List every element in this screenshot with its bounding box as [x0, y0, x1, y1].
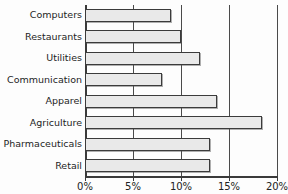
bar-retail [85, 159, 210, 172]
bar-row: Retail [0, 156, 288, 178]
category-label-computers: Computers [30, 9, 82, 20]
bar-row: Computers [0, 5, 288, 27]
bar-agriculture [85, 116, 262, 129]
plot-area: ComputersRestaurantsUtilitiesCommunicati… [0, 0, 288, 194]
x-tick-label: 20% [266, 181, 288, 192]
bar-chart-figure: ComputersRestaurantsUtilitiesCommunicati… [0, 0, 288, 194]
bar-row: Agriculture [0, 113, 288, 135]
category-label-agriculture: Agriculture [30, 117, 82, 128]
bar-computers [85, 9, 171, 22]
x-tick-label: 10% [170, 181, 192, 192]
category-label-utilities: Utilities [46, 52, 82, 63]
bar-pharmaceuticals [85, 138, 210, 151]
category-label-restaurants: Restaurants [25, 31, 82, 42]
x-tick-label: 0% [77, 181, 93, 192]
bar-restaurants [85, 30, 181, 43]
bar-row: Utilities [0, 48, 288, 70]
bar-row: Apparel [0, 91, 288, 113]
bar-communication [85, 73, 162, 86]
x-tick-label: 15% [218, 181, 240, 192]
bar-row: Pharmaceuticals [0, 134, 288, 156]
bar-utilities [85, 52, 200, 65]
category-label-retail: Retail [55, 160, 82, 171]
bar-row: Communication [0, 70, 288, 92]
x-tick-label: 5% [125, 181, 141, 192]
bar-row: Restaurants [0, 27, 288, 49]
category-label-pharmaceuticals: Pharmaceuticals [4, 138, 82, 149]
bar-apparel [85, 95, 217, 108]
category-label-communication: Communication [7, 74, 82, 85]
category-label-apparel: Apparel [45, 95, 82, 106]
